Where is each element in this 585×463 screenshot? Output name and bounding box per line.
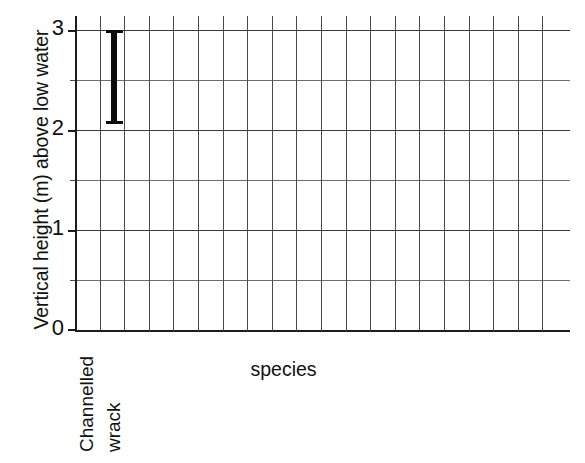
gridline-v-5 (198, 16, 199, 331)
y-tick-label-2: 2 (40, 117, 64, 139)
gridline-v-17 (493, 16, 494, 331)
gridline-v-11 (346, 16, 347, 331)
gridline-v-13 (395, 16, 396, 331)
y-tick-label-group: 3 2 1 0 (34, 0, 64, 463)
gridline-v-18 (518, 16, 519, 331)
x-category-label-wrack: wrack (103, 402, 125, 452)
caption-sliver (28, 449, 428, 458)
y-tick-label-3: 3 (40, 17, 64, 39)
gridline-v-0 (75, 16, 77, 331)
gridline-v-7 (247, 16, 248, 331)
errorbar-stem (111, 30, 117, 124)
gridline-v-8 (272, 16, 273, 331)
gridline-v-2 (124, 16, 125, 331)
gridline-v-6 (223, 16, 224, 331)
gridline-v-10 (321, 16, 322, 331)
plot-area (75, 30, 543, 330)
gridline-v-16 (469, 16, 470, 331)
y-tick-label-1: 1 (40, 217, 64, 239)
gridline-v-15 (444, 16, 445, 331)
gridline-v-1 (100, 16, 101, 331)
gridline-v-14 (419, 16, 420, 331)
gridline-v-12 (370, 16, 371, 331)
x-axis-title-wrap: species (0, 358, 585, 381)
gridline-v-4 (173, 16, 174, 331)
figure-chart: Vertical height (m) above low water 3 2 … (0, 0, 585, 463)
errorbar-cap-bottom (106, 121, 123, 124)
x-axis-title: species (250, 358, 316, 381)
gridline-v-3 (149, 16, 150, 331)
gridline-v-19 (542, 16, 543, 331)
gridline-v-9 (296, 16, 297, 331)
y-tick-label-0: 0 (40, 317, 64, 339)
